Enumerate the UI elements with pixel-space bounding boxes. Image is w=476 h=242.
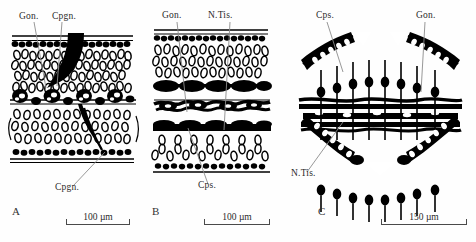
scale-bar-a: 100 µm — [66, 214, 130, 236]
panel-letter-b: B — [152, 206, 159, 217]
label-gon-c: Gon. — [416, 11, 436, 21]
label-gon-a: Gon. — [19, 12, 39, 22]
panel-b-leaders — [140, 0, 290, 200]
scale-bar-a-cap-right — [129, 219, 130, 225]
scale-bar-a-cap-left — [66, 219, 67, 225]
scale-bar-c-cap-left — [381, 219, 382, 225]
panel-b: Gon. N.Tis. Cps. B 100 µm — [140, 0, 290, 242]
scale-bar-c-cap-right — [466, 219, 467, 225]
scale-bar-c-line — [381, 224, 467, 225]
label-cpgn-a-lower: Cpgn. — [55, 183, 79, 193]
panel-letter-c: C — [318, 206, 325, 217]
scale-bar-b-cap-left — [204, 219, 205, 225]
figure-canvas: Gon. Cpgn. Cpgn. A 100 µm — [0, 0, 476, 242]
panel-letter-a: A — [12, 206, 20, 217]
scale-bar-b: 100 µm — [204, 214, 270, 236]
scale-bar-c: 150 µm — [381, 214, 467, 236]
panel-a-leaders — [0, 0, 150, 200]
scale-bar-b-line — [204, 224, 270, 225]
panel-a: Gon. Cpgn. Cpgn. A 100 µm — [0, 0, 150, 242]
scale-bar-b-text: 100 µm — [204, 213, 270, 223]
scale-bar-a-line — [66, 224, 130, 225]
label-gon-b: Gon. — [162, 11, 182, 21]
scale-bar-a-text: 100 µm — [66, 213, 130, 223]
scale-bar-c-text: 150 µm — [381, 213, 467, 223]
label-cps-c: Cps. — [316, 11, 334, 21]
panel-c: Cps. Gon. N.Tis. C 150 µm — [285, 0, 476, 242]
label-ntis-b: N.Tis. — [208, 11, 233, 21]
label-cpgn-a: Cpgn. — [52, 12, 76, 22]
scale-bar-b-cap-right — [269, 219, 270, 225]
label-cps-b: Cps. — [198, 181, 216, 191]
label-ntis-c: N.Tis. — [291, 169, 316, 179]
